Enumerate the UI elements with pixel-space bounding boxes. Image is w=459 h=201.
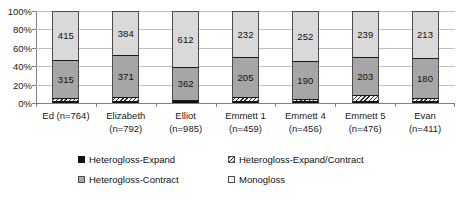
bar-value-label: 180 xyxy=(417,74,433,84)
bar-segment: 252 xyxy=(292,11,319,61)
x-axis-tick xyxy=(216,103,217,107)
legend-item[interactable]: Heterogloss-Expand/Contract xyxy=(228,154,364,165)
x-axis-tick xyxy=(156,103,157,107)
x-axis-labels: Ed (n=764)Elizabeth(n=792)Elliot(n=985)E… xyxy=(36,110,455,140)
category-label-line: Evan xyxy=(390,110,459,123)
legend-label: Heterogloss-Expand/Contract xyxy=(239,154,364,165)
x-axis-category-label: Evan(n=411) xyxy=(390,110,459,135)
legend-swatch-icon xyxy=(78,156,85,163)
bar-segment: 415 xyxy=(52,11,79,60)
bar-segment: 612 xyxy=(172,11,199,67)
bar-value-label: 213 xyxy=(417,30,433,40)
bar-value-label: 205 xyxy=(237,73,253,83)
category-label-line: (n=411) xyxy=(390,123,459,136)
bar-segment: 203 xyxy=(352,57,379,96)
legend-label: Monogloss xyxy=(239,174,285,185)
x-axis-tick xyxy=(275,103,276,107)
bar-segment: 232 xyxy=(232,11,259,57)
x-axis-tick xyxy=(335,103,336,107)
bar-value-label: 415 xyxy=(58,31,74,41)
bar-column: 213180 xyxy=(412,11,439,103)
bar-segment: 239 xyxy=(352,11,379,57)
bar-segment: 371 xyxy=(112,55,139,97)
bar-column: 252190 xyxy=(292,11,319,103)
y-axis-tick-label: 100% xyxy=(0,6,32,17)
bar-value-label: 190 xyxy=(297,76,313,86)
bar-value-label: 232 xyxy=(237,30,253,40)
bar-segment: 315 xyxy=(52,60,79,97)
bar-value-label: 371 xyxy=(118,72,134,82)
y-axis-tick-label: 40% xyxy=(0,61,32,72)
bar-segment: 180 xyxy=(412,58,439,98)
bars-layer: 4153153843716123622322052521902392032131… xyxy=(36,11,455,103)
y-axis-tick-label: 20% xyxy=(0,79,32,90)
legend-item[interactable]: Monogloss xyxy=(228,174,285,185)
bar-column: 612362 xyxy=(172,11,199,103)
y-axis-tick-label: 0% xyxy=(0,98,32,109)
bar-value-label: 362 xyxy=(178,79,194,89)
bar-segment: 190 xyxy=(292,61,319,99)
bar-segment: 205 xyxy=(232,57,259,98)
x-axis-tick xyxy=(395,103,396,107)
stacked-bar-chart: 100%80%60%40%20%0% 415315384371612362232… xyxy=(0,0,459,201)
bar-value-label: 384 xyxy=(118,29,134,39)
bar-value-label: 252 xyxy=(297,32,313,42)
legend-label: Heterogloss-Contract xyxy=(89,174,179,185)
bar-column: 384371 xyxy=(112,11,139,103)
legend-item[interactable]: Heterogloss-Expand xyxy=(78,154,175,165)
y-axis-tick-label: 60% xyxy=(0,42,32,53)
x-axis-tick xyxy=(454,103,455,107)
x-axis-tick xyxy=(96,103,97,107)
bar-value-label: 203 xyxy=(357,72,373,82)
bar-value-label: 239 xyxy=(357,30,373,40)
chart-legend: Heterogloss-ExpandHeterogloss-Expand/Con… xyxy=(0,152,459,196)
x-axis-tick xyxy=(36,103,37,107)
bar-value-label: 315 xyxy=(58,75,74,85)
bar-segment: 362 xyxy=(172,67,199,100)
y-axis-tick-label: 80% xyxy=(0,24,32,35)
bar-segment: 213 xyxy=(412,11,439,58)
bar-value-label: 612 xyxy=(178,35,194,45)
legend-label: Heterogloss-Expand xyxy=(89,154,175,165)
bar-column: 415315 xyxy=(52,11,79,103)
bar-column: 239203 xyxy=(352,11,379,103)
legend-swatch-icon xyxy=(228,176,235,183)
x-axis-line xyxy=(36,103,455,104)
legend-swatch-icon xyxy=(228,156,235,163)
bar-segment: 384 xyxy=(112,11,139,55)
legend-swatch-icon xyxy=(78,176,85,183)
bar-column: 232205 xyxy=(232,11,259,103)
legend-item[interactable]: Heterogloss-Contract xyxy=(78,174,179,185)
